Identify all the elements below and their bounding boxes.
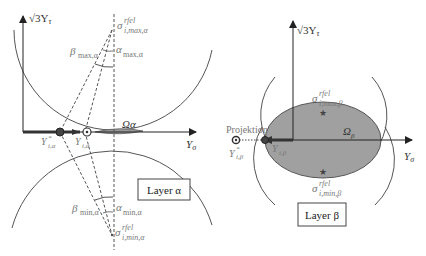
svg-text:α: α [116, 43, 122, 55]
y-star-label-alpha: Y * i,α [41, 134, 56, 150]
svg-text:rfel: rfel [124, 16, 136, 25]
svg-text:σ: σ [115, 226, 121, 238]
star-min-beta: ★ [319, 167, 327, 177]
svg-text:σ: σ [312, 92, 318, 104]
svg-text:min,α: min,α [123, 208, 142, 217]
omega-alpha-label: Ωα [122, 118, 136, 130]
alpha-max-label: α max,α [116, 43, 144, 59]
layer-beta-box: Layer β [298, 203, 346, 226]
y-label-alpha: Y i,α [75, 136, 90, 150]
svg-text:*: * [236, 145, 240, 153]
svg-text:max,α: max,α [123, 50, 144, 59]
y-star-label-beta: Y * i,β [229, 145, 244, 161]
svg-text:rfel: rfel [319, 89, 331, 98]
projection-label: Projektion [226, 124, 268, 135]
upper-yield-circle-alpha [14, 30, 212, 130]
beta-max-label: β max,α [69, 45, 99, 60]
svg-text:max,α: max,α [78, 51, 99, 60]
sigma-min-label-alpha: σ rfel i,min,α [111, 223, 145, 242]
svg-text:Ω: Ω [343, 125, 351, 137]
svg-text:β: β [69, 45, 76, 57]
star-max-beta: ★ [319, 108, 327, 118]
svg-text:β: β [71, 202, 78, 214]
point-y-beta [262, 137, 269, 144]
svg-text:α: α [116, 201, 122, 213]
svg-text:Layer α: Layer α [147, 184, 181, 196]
svg-text:rfel: rfel [319, 179, 331, 188]
panel-beta: ★ ★ √3Yτ Yσ σ rfel i,max,β Ω β σ rfel i,… [226, 21, 415, 226]
svg-text:i,α: i,α [48, 142, 56, 150]
svg-text:Y: Y [229, 148, 236, 159]
svg-text:i,max,β: i,max,β [319, 99, 343, 108]
x-axis-label-alpha: Yσ [186, 138, 197, 152]
svg-text:Y: Y [75, 136, 82, 147]
svg-text:rfel: rfel [122, 223, 134, 232]
x-axis-label-beta: Yσ [404, 150, 415, 164]
svg-text:min,α: min,α [80, 208, 99, 217]
svg-text:σ: σ [312, 182, 318, 194]
svg-text:σ: σ [117, 19, 123, 31]
svg-text:Layer β: Layer β [305, 209, 339, 221]
sigma-max-label-alpha: σ rfel i,max,α [117, 16, 149, 35]
svg-text:i,β: i,β [279, 149, 287, 157]
svg-text:Y: Y [41, 136, 48, 147]
diagram-canvas: √3Yτ Yσ σ rfel i,max,α β max,α α max,α Ω… [0, 0, 426, 256]
sigma-min-label-beta: σ rfel i,min,β [312, 179, 341, 198]
layer-alpha-box: Layer α [138, 179, 190, 200]
svg-text:β: β [350, 132, 355, 140]
panel-alpha: √3Yτ Yσ σ rfel i,max,α β max,α α max,α Ω… [12, 12, 212, 250]
svg-text:i,min,α: i,min,α [122, 233, 145, 242]
svg-text:*: * [48, 134, 52, 142]
svg-text:i,max,α: i,max,α [124, 26, 149, 35]
y-axis-label-beta: √3Yτ [297, 24, 320, 38]
alpha-min-label: α min,α [116, 201, 142, 217]
y-axis-label-alpha: √3Yτ [29, 12, 52, 26]
svg-text:i,β: i,β [236, 153, 244, 161]
point-y-star-alpha [56, 128, 64, 136]
svg-text:i,α: i,α [82, 142, 90, 150]
beta-min-label: β min,α [71, 202, 99, 217]
svg-text:i,min,β: i,min,β [319, 189, 341, 198]
